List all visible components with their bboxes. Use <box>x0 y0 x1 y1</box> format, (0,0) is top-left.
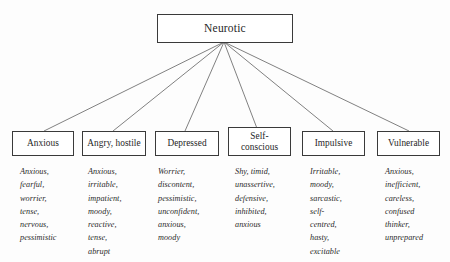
branch-label-depressed: Depressed <box>165 138 208 148</box>
branch-box-self-conscious[interactable]: Self- conscious <box>228 127 291 156</box>
trait-list-vulnerable: Anxious, inefficient, careless, confused… <box>385 165 447 245</box>
branch-label-angry-hostile: Angry, hostile <box>85 138 142 148</box>
root-node-neurotic[interactable]: Neurotic <box>157 14 293 43</box>
connector-line-impulsive <box>224 42 333 131</box>
branch-box-depressed[interactable]: Depressed <box>155 131 219 156</box>
connector-line-angry-hostile <box>113 42 224 131</box>
trait-list-angry-hostile: Anxious, irritable, impatient, moody, re… <box>88 165 150 258</box>
branch-label-impulsive: Impulsive <box>313 138 355 148</box>
branch-label-self-conscious: Self- conscious <box>239 131 280 152</box>
branch-label-vulnerable: Vulnerable <box>386 138 431 148</box>
branch-box-angry-hostile[interactable]: Angry, hostile <box>82 131 146 156</box>
trait-list-depressed: Worrier, discontent, pessimistic, unconf… <box>158 165 228 245</box>
connector-line-self-conscious <box>224 42 258 131</box>
branch-box-impulsive[interactable]: Impulsive <box>302 131 365 156</box>
connector-line-depressed <box>185 42 224 131</box>
trait-list-anxious: Anxious, fearful, worrier, tense, nervou… <box>20 165 82 245</box>
branch-box-anxious[interactable]: Anxious <box>12 131 74 156</box>
branch-box-vulnerable[interactable]: Vulnerable <box>377 131 440 156</box>
neuroticism-facet-diagram: Neurotic Anxious Angry, hostile Depresse… <box>0 0 450 262</box>
connector-line-anxious <box>44 42 224 131</box>
trait-list-self-conscious: Shy, timid, unassertive, defensive, inhi… <box>235 165 303 231</box>
branch-label-anxious: Anxious <box>25 138 61 148</box>
trait-list-impulsive: Irritable, moody, sarcastic, self- centr… <box>310 165 376 258</box>
root-node-label: Neurotic <box>204 22 246 35</box>
connector-line-vulnerable <box>224 42 409 131</box>
